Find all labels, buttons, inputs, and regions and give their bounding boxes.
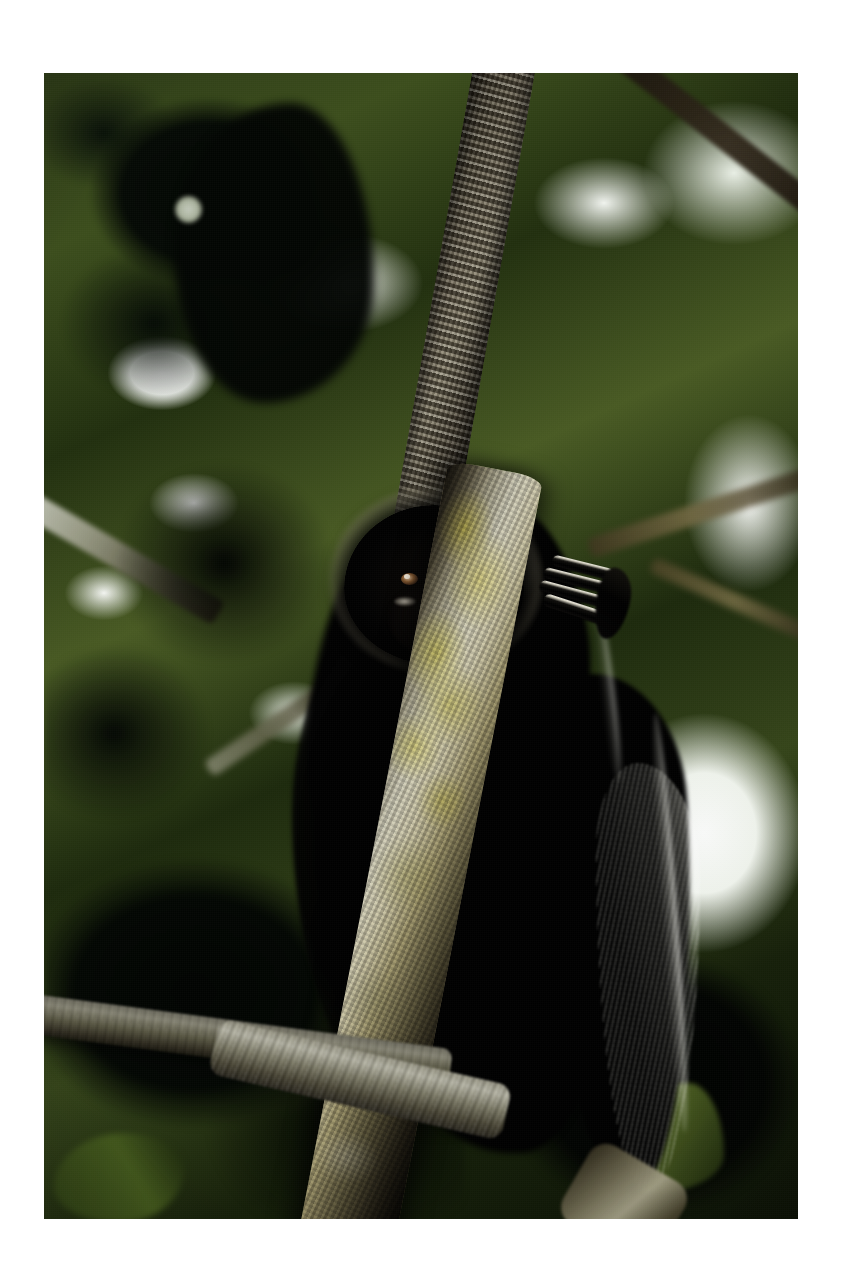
photograph [44, 73, 798, 1219]
page-root [0, 0, 850, 1279]
caption-area [44, 1225, 798, 1269]
monkey-hand [531, 549, 631, 649]
eye-highlight-left [404, 574, 410, 579]
brow-highlight [394, 597, 416, 606]
